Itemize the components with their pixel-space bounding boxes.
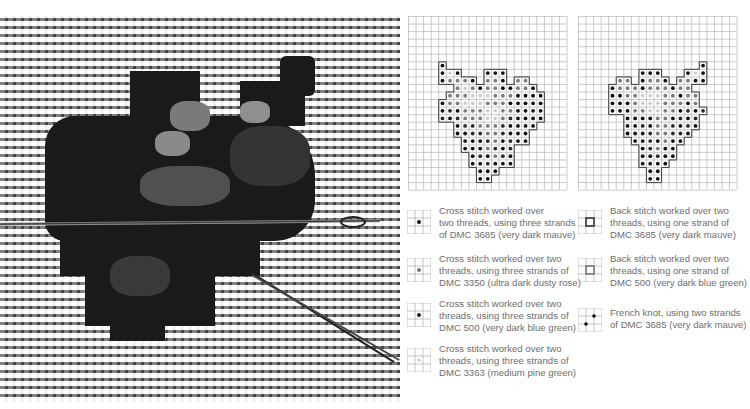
legend-text: Cross stitch worked over twothreads, usi…: [439, 253, 584, 290]
legend-text: Cross stitch worked over twothreads, usi…: [439, 343, 584, 380]
legend-text: Back stitch worked over twothreads, usin…: [610, 205, 750, 242]
legend-french-knot-3685: French knot, using two strandsof DMC 368…: [578, 303, 750, 332]
cross-stitch-dusty-rose-icon: [407, 258, 431, 282]
cross-stitch-pine-green-icon: [407, 348, 431, 372]
back-stitch-dark-mauve-icon: [578, 210, 602, 234]
french-knot-icon: [578, 308, 602, 332]
needle-eye: [340, 216, 366, 228]
legend-text: Cross stitch worked over twothreads, usi…: [439, 298, 584, 335]
legend-back-stitch-3685: Back stitch worked over twothreads, usin…: [578, 205, 750, 242]
legend-cross-stitch-500: Cross stitch worked over twothreads, usi…: [407, 298, 584, 335]
cross-stitch-blue-green-icon: [407, 303, 431, 327]
cross-stitch-photo: [0, 16, 400, 402]
legend-text: Back stitch worked over twothreads, usin…: [610, 253, 750, 290]
cross-stitch-dark-mauve-icon: [407, 210, 431, 234]
thread-strand: [252, 274, 400, 361]
legend-cross-stitch-3350: Cross stitch worked over twothreads, usi…: [407, 253, 584, 290]
back-stitch-blue-green-icon: [578, 258, 602, 282]
legend-cross-stitch-3685: Cross stitch worked overtwo threads, usi…: [407, 205, 584, 242]
legend-cross-stitch-3363: Cross stitch worked over twothreads, usi…: [407, 343, 584, 380]
chart-left: [408, 16, 568, 191]
chart-right: [578, 16, 738, 191]
legend-back-stitch-500: Back stitch worked over twothreads, usin…: [578, 253, 750, 290]
legend-text: French knot, using two strandsof DMC 368…: [610, 303, 750, 331]
legend-text: Cross stitch worked overtwo threads, usi…: [439, 205, 584, 242]
